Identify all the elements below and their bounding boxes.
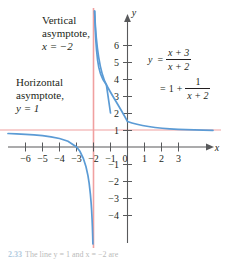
fraction-two-numerator: 1 bbox=[193, 76, 202, 88]
horizontal-asymptote-line2: asymptote, bbox=[16, 89, 64, 102]
y-axis-arrow-icon bbox=[124, 14, 131, 22]
equation-constant-one: 1 bbox=[169, 83, 174, 95]
figure-container: −6 −5 −4 −3 −2 −1 0 1 2 3 1 2 3 4 5 6 −1… bbox=[0, 0, 229, 263]
fraction-one-numerator: x + 3 bbox=[166, 47, 191, 59]
equation-equals-sign: = bbox=[157, 54, 163, 66]
x-tick-label: 3 bbox=[176, 153, 181, 164]
horizontal-asymptote-equation: y = 1 bbox=[16, 102, 64, 115]
function-equation: y = x + 3 x + 2 = 1 + 1 x + 2 bbox=[148, 47, 210, 101]
x-tick-label: 0 bbox=[123, 153, 128, 164]
x-tick-label: −4 bbox=[54, 153, 65, 164]
horizontal-asymptote-annotation: Horizontal asymptote, y = 1 bbox=[16, 76, 64, 115]
x-axis-arrow-icon bbox=[206, 144, 214, 151]
equation-fraction-one: x + 3 x + 2 bbox=[166, 47, 191, 72]
y-tick-label: 1 bbox=[114, 125, 119, 136]
curve-right-branch bbox=[95, 11, 111, 113]
x-tick-labels: −6 −5 −4 −3 −2 −1 0 1 2 3 bbox=[20, 153, 181, 164]
y-tick-label: −2 bbox=[108, 176, 119, 187]
caption-number: 2.33 bbox=[8, 250, 22, 259]
vertical-asymptote-equation: x = −2 bbox=[42, 40, 90, 53]
y-tick-label: 4 bbox=[114, 74, 119, 85]
figure-caption: 2.33The line y = 1 and x = −2 are bbox=[8, 250, 118, 260]
equation-row-secondary: = 1 + 1 x + 2 bbox=[157, 76, 210, 101]
equation-lhs: y bbox=[148, 54, 152, 66]
equation-row-primary: y = x + 3 x + 2 bbox=[148, 47, 210, 72]
graph-plot: −6 −5 −4 −3 −2 −1 0 1 2 3 1 2 3 4 5 6 −1… bbox=[0, 0, 229, 263]
x-tick-label: −5 bbox=[37, 153, 48, 164]
fraction-two-denominator: x + 2 bbox=[185, 89, 210, 101]
equation-fraction-two: 1 x + 2 bbox=[185, 76, 210, 101]
horizontal-asymptote-line1: Horizontal bbox=[16, 76, 64, 89]
y-tick-label: 6 bbox=[114, 40, 119, 51]
y-tick-label: −3 bbox=[108, 193, 119, 204]
y-tick-label: 5 bbox=[114, 57, 119, 68]
vertical-asymptote-annotation: Vertical asymptote, x = −2 bbox=[42, 14, 90, 53]
y-axis-label: y bbox=[131, 7, 137, 18]
y-tick-label: −4 bbox=[108, 210, 119, 221]
x-tick-label: −3 bbox=[71, 153, 82, 164]
x-tick-label: −2 bbox=[88, 153, 99, 164]
x-tick-label: 2 bbox=[159, 153, 164, 164]
caption-text: The line y = 1 and x = −2 are bbox=[25, 250, 118, 259]
vertical-asymptote-line2: asymptote, bbox=[42, 27, 90, 40]
fraction-one-denominator: x + 2 bbox=[166, 60, 191, 72]
equation-second-equals-sign: = bbox=[160, 83, 166, 95]
x-tick-label: 1 bbox=[142, 153, 147, 164]
y-tick-label: 2 bbox=[114, 108, 119, 119]
vertical-asymptote-line1: Vertical bbox=[42, 14, 90, 27]
y-tick-label: −1 bbox=[108, 159, 119, 170]
x-axis-label: x bbox=[214, 142, 220, 153]
x-tick-label: −6 bbox=[20, 153, 31, 164]
equation-plus-sign: + bbox=[177, 83, 183, 95]
curve-left-branch bbox=[8, 134, 93, 245]
